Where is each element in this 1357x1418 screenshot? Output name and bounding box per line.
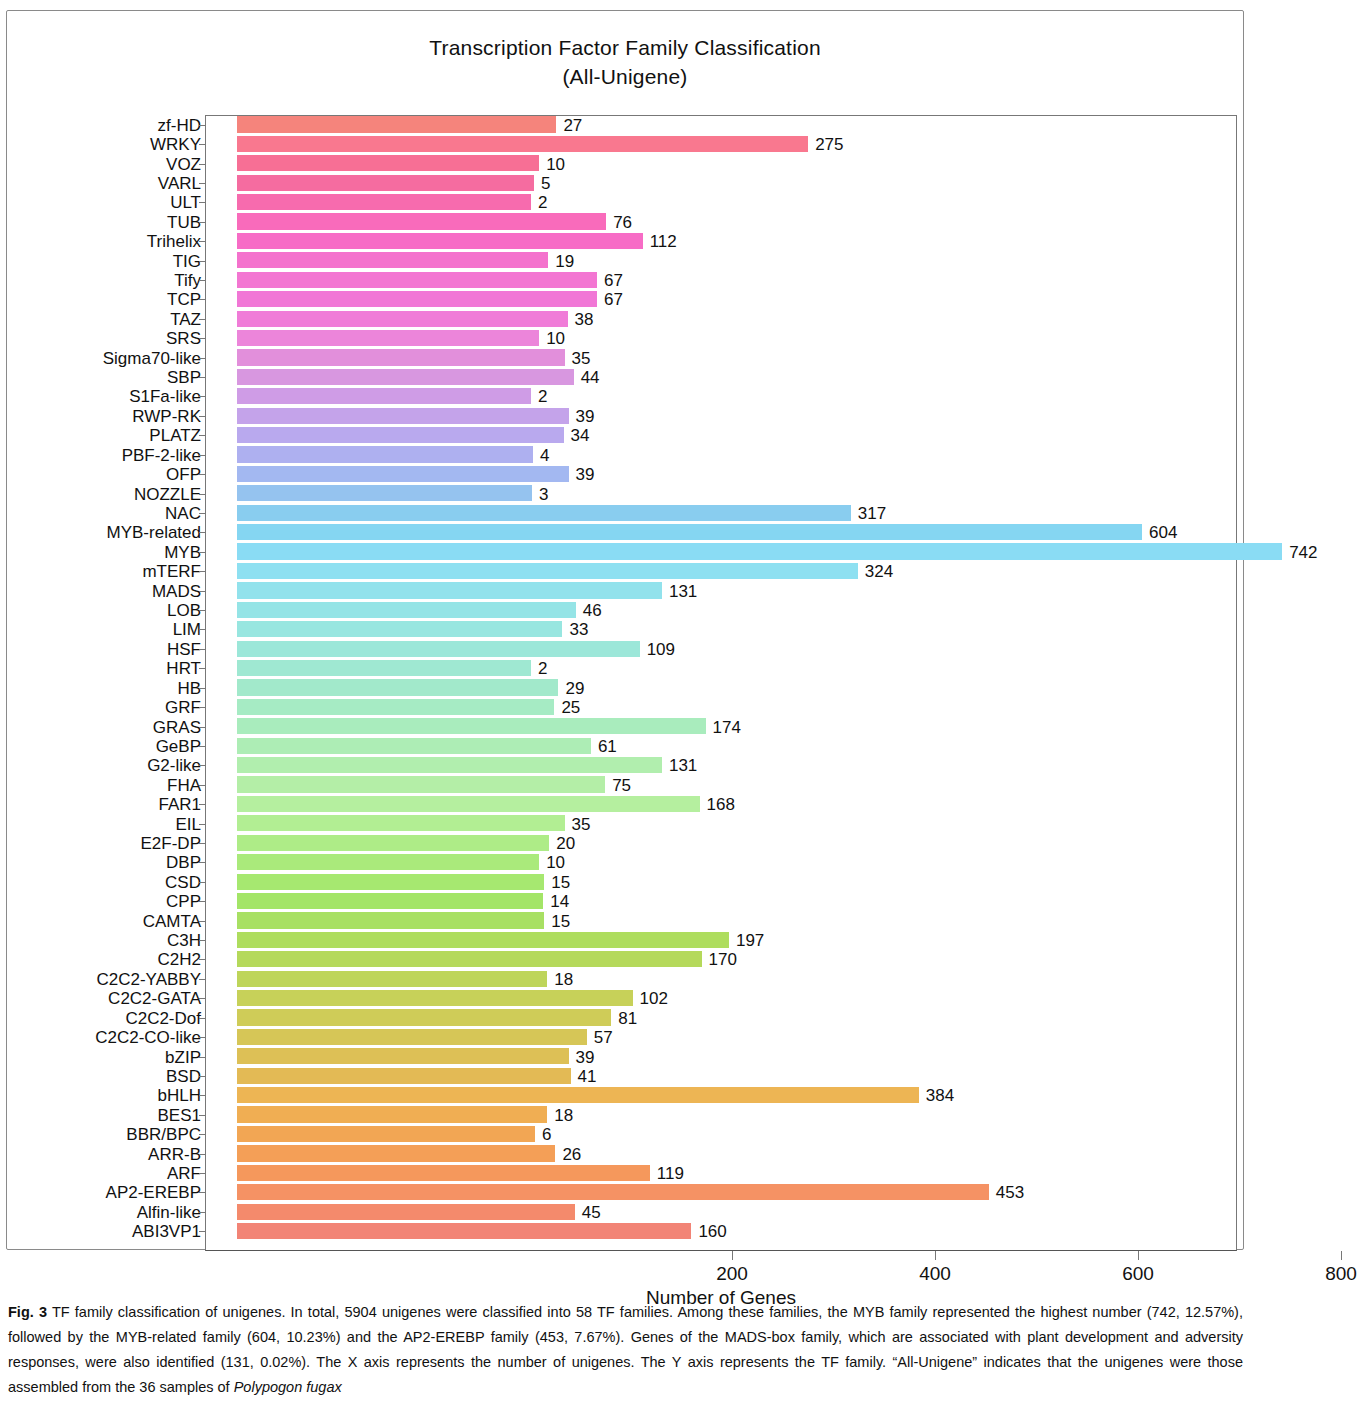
bar [237, 1029, 587, 1045]
y-axis-tick [199, 319, 205, 320]
bar [237, 155, 539, 171]
y-axis-tick [199, 125, 205, 126]
y-axis-label-ult: ULT [170, 193, 201, 212]
figure-frame: Transcription Factor Family Classificati… [6, 10, 1244, 1250]
y-axis-label-far1: FAR1 [158, 795, 201, 814]
x-axis-tick-label: 600 [1122, 1263, 1154, 1285]
y-axis-tick [199, 552, 205, 553]
y-axis-label-nozzle: NOZZLE [134, 484, 201, 503]
y-axis-label-c2c2-gata: C2C2-GATA [108, 989, 201, 1008]
bar-row: WRKY275 [205, 134, 1237, 153]
y-axis-tick [199, 746, 205, 747]
bar-value-label: 384 [919, 1086, 954, 1105]
bar-row: BBR/BPC6 [205, 1125, 1237, 1144]
bar-value-label: 317 [851, 503, 886, 522]
bar-row: GRF25 [205, 697, 1237, 716]
y-axis-tick [199, 144, 205, 145]
bar [237, 175, 534, 191]
bar [237, 1165, 650, 1181]
y-axis-tick [199, 532, 205, 533]
bar [237, 951, 702, 967]
y-axis-tick [199, 494, 205, 495]
y-axis-label-srs: SRS [166, 329, 201, 348]
bar [237, 815, 565, 831]
y-axis-label-tub: TUB [167, 212, 201, 231]
bar-row: C2C2-CO-like57 [205, 1027, 1237, 1046]
y-axis-tick [199, 280, 205, 281]
y-axis-tick [199, 901, 205, 902]
bar [237, 543, 1282, 559]
bar-value-label: 174 [706, 717, 741, 736]
y-axis-label-sbp: SBP [167, 368, 201, 387]
y-axis-label-pbf-2-like: PBF-2-like [122, 445, 201, 464]
bar-row: G2-like131 [205, 756, 1237, 775]
bar-value-label: 275 [808, 135, 843, 154]
bar [237, 485, 532, 501]
bar [237, 1184, 989, 1200]
bar-row: LIM33 [205, 620, 1237, 639]
bar-row: Trihelix112 [205, 231, 1237, 250]
bar [237, 524, 1142, 540]
y-axis-label-trihelix: Trihelix [147, 232, 201, 251]
bar-value-label: 160 [691, 1222, 726, 1241]
bar-value-label: 18 [547, 969, 573, 988]
bar-value-label: 35 [565, 814, 591, 833]
bar [237, 718, 706, 734]
bar-value-label: 453 [989, 1183, 1024, 1202]
y-axis-label-gebp: GeBP [156, 736, 201, 755]
bar-value-label: 38 [568, 309, 594, 328]
y-axis-tick [199, 513, 205, 514]
y-axis-tick [199, 629, 205, 630]
y-axis-label-hb: HB [177, 678, 201, 697]
y-axis-tick [199, 1173, 205, 1174]
bar-value-label: 25 [554, 698, 580, 717]
bar-value-label: 81 [611, 1008, 637, 1027]
x-axis-tick [1341, 1251, 1342, 1260]
bar-row: TUB76 [205, 212, 1237, 231]
bar-value-label: 75 [605, 775, 631, 794]
bar-value-label: 14 [543, 892, 569, 911]
y-axis-tick [199, 785, 205, 786]
bar-row: SBP44 [205, 367, 1237, 386]
y-axis-label-myb-related: MYB-related [107, 523, 201, 542]
y-axis-label-rwp-rk: RWP-RK [132, 406, 201, 425]
bar [237, 621, 562, 637]
bar-row: TIG19 [205, 251, 1237, 270]
y-axis-tick [199, 1212, 205, 1213]
y-axis-label-abi3vp1: ABI3VP1 [132, 1222, 201, 1241]
y-axis-tick [199, 299, 205, 300]
bar [237, 505, 851, 521]
bar [237, 641, 640, 657]
y-axis-label-grf: GRF [165, 698, 201, 717]
bar-value-label: 131 [662, 581, 697, 600]
bar-row: VOZ10 [205, 154, 1237, 173]
caption-text: TF family classification of unigenes. In… [8, 1304, 1243, 1395]
chart-title: Transcription Factor Family Classificati… [7, 33, 1243, 91]
bar-value-label: 44 [574, 368, 600, 387]
bar-value-label: 742 [1282, 542, 1317, 561]
y-axis-label-g2-like: G2-like [147, 756, 201, 775]
y-axis-label-gras: GRAS [153, 717, 201, 736]
bar [237, 776, 605, 792]
figure-caption: Fig. 3 TF family classification of unige… [8, 1300, 1243, 1400]
bar-row: C2C2-GATA102 [205, 989, 1237, 1008]
bar-value-label: 15 [544, 872, 570, 891]
bar [237, 1068, 571, 1084]
bar-value-label: 10 [539, 853, 565, 872]
bar-value-label: 168 [700, 795, 735, 814]
bar-value-label: 604 [1142, 523, 1177, 542]
y-axis-tick [199, 435, 205, 436]
y-axis-label-myb: MYB [164, 542, 201, 561]
bar [237, 757, 662, 773]
bar-value-label: 76 [606, 212, 632, 231]
x-axis-tick [1138, 1251, 1139, 1260]
bar-row: DBP10 [205, 853, 1237, 872]
bar [237, 1145, 555, 1161]
bar [237, 1223, 691, 1239]
y-axis-tick [199, 921, 205, 922]
bar [237, 1106, 547, 1122]
bar-value-label: 39 [569, 1047, 595, 1066]
bar-value-label: 26 [555, 1144, 581, 1163]
bar [237, 990, 633, 1006]
bar-row: BSD41 [205, 1066, 1237, 1085]
